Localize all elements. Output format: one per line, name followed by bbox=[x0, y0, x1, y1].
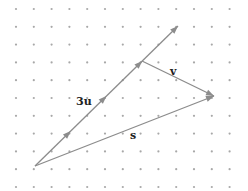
grid-dot bbox=[193, 79, 195, 81]
grid-dot bbox=[193, 133, 195, 135]
grid-dot bbox=[104, 150, 106, 152]
grid-dot bbox=[140, 26, 142, 28]
grid-dot bbox=[211, 168, 213, 170]
grid-dot bbox=[193, 61, 195, 63]
grid-dot bbox=[140, 150, 142, 152]
arrowhead-icon bbox=[205, 90, 214, 96]
grid-dot bbox=[86, 26, 88, 28]
grid-dot bbox=[122, 97, 124, 99]
grid-dot bbox=[86, 44, 88, 46]
grid-dot bbox=[211, 61, 213, 63]
vector-v bbox=[142, 61, 214, 96]
grid-dot bbox=[193, 44, 195, 46]
grid-dot bbox=[211, 133, 213, 135]
grid-dot bbox=[122, 115, 124, 117]
grid-dot bbox=[140, 133, 142, 135]
grid-dot bbox=[122, 44, 124, 46]
grid-dot bbox=[68, 97, 70, 99]
grid-dot bbox=[51, 115, 53, 117]
grid-dot bbox=[51, 79, 53, 81]
grid-dot bbox=[15, 186, 17, 188]
grid-dot bbox=[229, 79, 231, 81]
grid-dot bbox=[122, 26, 124, 28]
grid-dot bbox=[51, 133, 53, 135]
grid-dot bbox=[51, 97, 53, 99]
grid-dot bbox=[86, 168, 88, 170]
grid-dot bbox=[229, 133, 231, 135]
grid-dot bbox=[157, 133, 159, 135]
grid-dot bbox=[51, 26, 53, 28]
grid-dot bbox=[140, 186, 142, 188]
grid-dot bbox=[86, 150, 88, 152]
label-v: v bbox=[170, 65, 176, 78]
grid-dot bbox=[15, 133, 17, 135]
grid-dot bbox=[122, 150, 124, 152]
grid-dot bbox=[33, 97, 35, 99]
grid-dot bbox=[157, 79, 159, 81]
grid-dot bbox=[140, 97, 142, 99]
grid-dot bbox=[33, 44, 35, 46]
grid-dot bbox=[68, 61, 70, 63]
grid-dot bbox=[68, 8, 70, 10]
grid-dot bbox=[104, 133, 106, 135]
grid-dot bbox=[86, 8, 88, 10]
grid-dot bbox=[86, 61, 88, 63]
grid-dot bbox=[104, 79, 106, 81]
grid-dot bbox=[157, 150, 159, 152]
grid-dot bbox=[193, 26, 195, 28]
vectors bbox=[35, 26, 214, 166]
arrowhead-icon bbox=[205, 96, 214, 102]
grid-dot bbox=[104, 186, 106, 188]
grid-dot bbox=[33, 8, 35, 10]
grid-dot bbox=[15, 8, 17, 10]
grid-dot bbox=[15, 44, 17, 46]
grid-dot bbox=[15, 168, 17, 170]
grid-dot bbox=[51, 44, 53, 46]
grid-dot bbox=[193, 168, 195, 170]
grid-dot bbox=[193, 115, 195, 117]
grid-dot bbox=[175, 186, 177, 188]
grid-dot bbox=[140, 115, 142, 117]
grid-dot bbox=[33, 186, 35, 188]
grid-dot bbox=[122, 133, 124, 135]
grid-dot bbox=[157, 186, 159, 188]
grid-dot bbox=[157, 8, 159, 10]
grid-dot bbox=[175, 8, 177, 10]
grid-dot bbox=[68, 79, 70, 81]
grid-dot bbox=[86, 133, 88, 135]
grid-dot bbox=[104, 168, 106, 170]
grid-dot bbox=[15, 61, 17, 63]
grid-dot bbox=[68, 115, 70, 117]
grid-dot bbox=[140, 168, 142, 170]
grid-dot bbox=[211, 26, 213, 28]
grid-dot bbox=[104, 115, 106, 117]
grid-dot bbox=[104, 61, 106, 63]
grid-dot bbox=[140, 79, 142, 81]
grid-dot bbox=[15, 150, 17, 152]
grid-dot bbox=[193, 150, 195, 152]
grid-dot bbox=[193, 97, 195, 99]
grid-dot bbox=[211, 186, 213, 188]
grid-dot bbox=[175, 79, 177, 81]
grid-dot bbox=[175, 168, 177, 170]
grid-dot bbox=[193, 186, 195, 188]
grid-dot bbox=[157, 97, 159, 99]
grid-dot bbox=[211, 150, 213, 152]
grid-dot bbox=[68, 168, 70, 170]
grid-dot bbox=[104, 26, 106, 28]
grid-dot bbox=[122, 168, 124, 170]
grid-dot bbox=[229, 44, 231, 46]
grid-dot bbox=[157, 115, 159, 117]
grid-dot bbox=[175, 115, 177, 117]
grid-dot bbox=[140, 8, 142, 10]
grid-dot bbox=[51, 61, 53, 63]
vector-s bbox=[35, 96, 214, 166]
grid-dot bbox=[122, 61, 124, 63]
label-3u: 3u bbox=[76, 95, 92, 108]
grid-dot bbox=[51, 8, 53, 10]
grid-dot bbox=[229, 186, 231, 188]
grid-dot bbox=[175, 44, 177, 46]
grid-dot bbox=[51, 186, 53, 188]
grid-dot bbox=[51, 168, 53, 170]
diagram-svg bbox=[0, 0, 248, 191]
